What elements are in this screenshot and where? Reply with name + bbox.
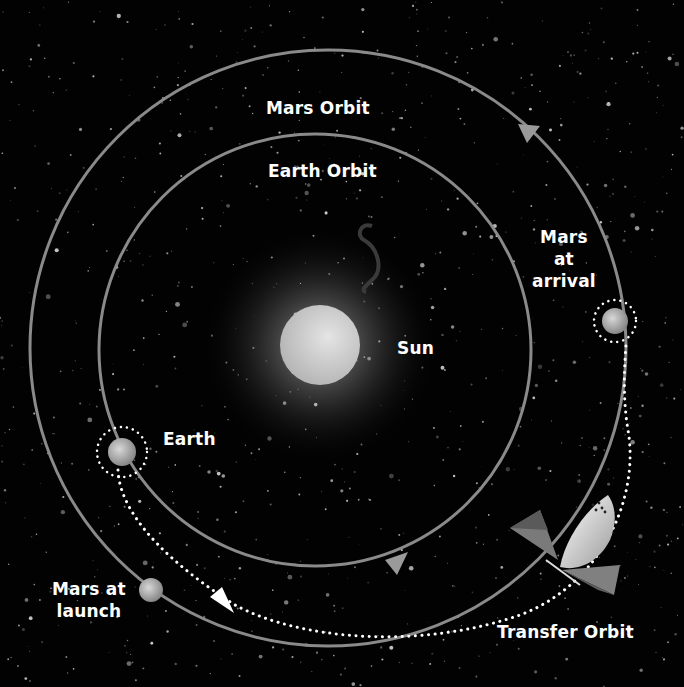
spacecraft-icon (510, 495, 620, 595)
mars-at-arrival-line3: arrival (532, 270, 596, 292)
mars-at-launch-planet (139, 578, 163, 602)
earth-planet (108, 438, 136, 466)
mars-orbit-label: Mars Orbit (266, 97, 370, 119)
mars-at-launch-line2: launch (52, 600, 126, 622)
earth-label: Earth (163, 428, 216, 450)
mars-at-arrival-line1: Mars (532, 226, 596, 248)
earth-orbit-label: Earth Orbit (268, 160, 377, 182)
mars-at-arrival-label: Mars at arrival (532, 226, 596, 292)
earth-orbit-arrow-icon (385, 552, 408, 575)
mars-at-launch-line1: Mars at (52, 578, 126, 600)
sun-label: Sun (397, 337, 434, 359)
mars-at-arrival-planet (602, 308, 628, 334)
transfer-orbit-label: Transfer Orbit (497, 621, 634, 643)
sun (280, 305, 360, 385)
mars-at-arrival-line2: at (532, 248, 596, 270)
hohmann-transfer-diagram: Mars Orbit Earth Orbit Sun Earth Mars at… (0, 0, 684, 687)
mars-at-launch-label: Mars at launch (52, 578, 126, 622)
